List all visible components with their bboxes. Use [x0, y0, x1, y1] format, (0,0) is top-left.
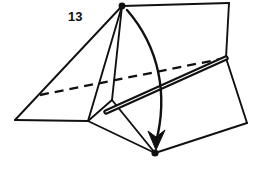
fold-crease-inner-highlight	[106, 58, 226, 112]
crease-group	[106, 58, 226, 112]
edge-topright-to-hinge	[226, 3, 229, 58]
apex-dot	[119, 3, 126, 10]
geometry-figure: 13	[0, 0, 262, 172]
label-13: 13	[68, 9, 82, 24]
edge-apex-to-topright	[122, 3, 229, 6]
edge-hinge-to-flapright	[226, 58, 247, 123]
edge-junction-to-bottomdot	[88, 121, 155, 153]
edge-bottomdot-to-flapright	[155, 123, 247, 153]
bottom-dot	[151, 149, 158, 156]
fold-direction-arrow	[127, 10, 165, 150]
edge-left-to-junction	[15, 120, 88, 121]
figure-container: 13	[0, 0, 262, 172]
